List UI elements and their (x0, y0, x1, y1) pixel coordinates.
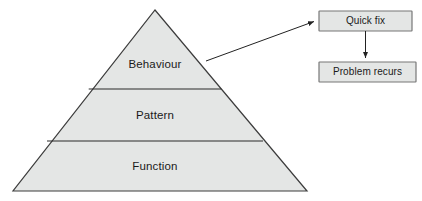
pyramid: Behaviour Pattern Function (13, 10, 307, 191)
problem-recurs-box[interactable]: Problem recurs (319, 62, 416, 82)
diagram-canvas: Behaviour Pattern Function Quick fix Pro… (0, 0, 422, 201)
pyramid-tier-label-behaviour: Behaviour (128, 58, 181, 70)
pyramid-tier-label-function: Function (132, 160, 177, 172)
arrow-behaviour-to-quick-fix (206, 22, 314, 62)
quick-fix-box[interactable]: Quick fix (319, 11, 412, 31)
quick-fix-box-label: Quick fix (346, 15, 385, 26)
problem-recurs-box-label: Problem recurs (333, 66, 402, 77)
pyramid-tier-label-pattern: Pattern (136, 109, 174, 121)
diagram-root: Behaviour Pattern Function Quick fix Pro… (0, 0, 422, 201)
